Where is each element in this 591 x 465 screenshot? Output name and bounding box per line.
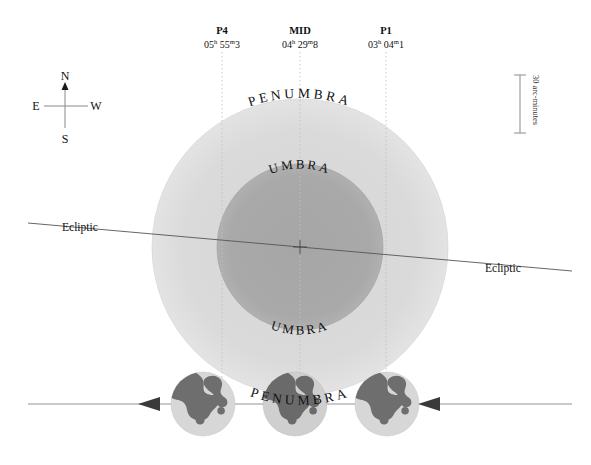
- eclipse-diagram-figure: PENUMBRA UMBRA UMBRA PENUMBRA P4 05h 55m…: [0, 0, 591, 465]
- contact-p4-time: 05h 55m3: [204, 38, 240, 50]
- contact-p4-name: P4: [216, 25, 228, 36]
- contact-p1-time: 03h 04m1: [368, 38, 404, 50]
- ecliptic-label-right: Ecliptic: [485, 262, 521, 275]
- compass-north-label: N: [61, 69, 70, 83]
- contact-p4-hours: 05: [204, 39, 214, 50]
- contact-p4-minutes: 55: [220, 39, 230, 50]
- scale-bar-label: 30 arc-minutes: [531, 75, 540, 125]
- contact-mid-minutes: 29: [298, 39, 308, 50]
- contact-mid-name: MID: [289, 25, 311, 36]
- compass-south-label: S: [62, 132, 69, 146]
- compass-east-label: E: [32, 99, 39, 113]
- contact-mid-hours: 04: [282, 39, 292, 50]
- contact-p4-decimal: 3: [235, 39, 240, 50]
- contact-p1-decimal: 1: [399, 39, 404, 50]
- contact-p1-hours: 03: [368, 39, 378, 50]
- contact-mid-decimal: 8: [313, 39, 318, 50]
- contact-p1-minutes: 04: [384, 39, 394, 50]
- contact-p1-name: P1: [380, 25, 392, 36]
- contact-mid-time: 04h 29m8: [282, 38, 318, 50]
- compass-west-label: W: [90, 99, 102, 113]
- eclipse-diagram-canvas: PENUMBRA UMBRA UMBRA PENUMBRA P4 05h 55m…: [0, 0, 591, 465]
